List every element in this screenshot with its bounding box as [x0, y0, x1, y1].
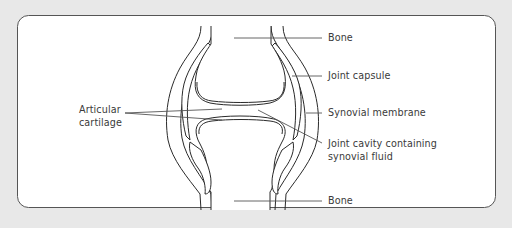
label-bone-bottom: Bone — [328, 194, 353, 207]
label-articular-line2: cartilage — [79, 116, 122, 129]
label-joint-cavity-line1: Joint cavity containing — [328, 137, 437, 150]
label-joint-capsule: Joint capsule — [328, 69, 390, 82]
label-joint-cavity-line2: synovial fluid — [328, 150, 437, 163]
label-articular-cartilage: Articular cartilage — [79, 103, 122, 129]
label-articular-line1: Articular — [79, 103, 122, 116]
label-synovial-membrane: Synovial membrane — [328, 106, 426, 119]
label-bone-top: Bone — [328, 31, 353, 44]
label-joint-cavity: Joint cavity containing synovial fluid — [328, 137, 437, 163]
synovial-joint-diagram — [0, 0, 512, 228]
